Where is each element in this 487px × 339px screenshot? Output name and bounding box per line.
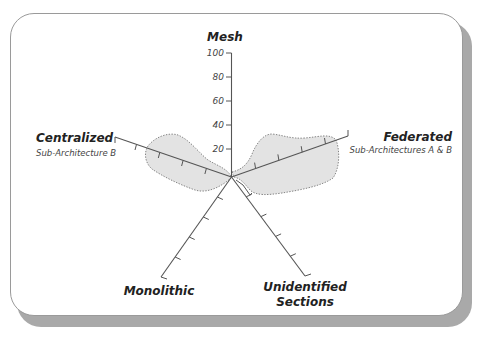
axis-label-federated: Federated bbox=[383, 130, 452, 144]
federated-region bbox=[232, 134, 339, 195]
tick-label-100: 100 bbox=[207, 48, 224, 58]
axis-sublabel-federated: Sub-Architectures A & B bbox=[350, 145, 453, 155]
axis-label-mesh: Mesh bbox=[207, 30, 243, 44]
monolithic-axis bbox=[161, 177, 232, 277]
axis-label-centralized: Centralized bbox=[36, 131, 114, 145]
axis-label-sections: Sections bbox=[276, 295, 334, 309]
axis-label-monolithic: Monolithic bbox=[124, 284, 195, 298]
tick-label-20: 20 bbox=[213, 144, 225, 154]
mesh-ticks bbox=[226, 53, 232, 149]
radar-diagram: 100 80 60 40 20 Mesh Feder bbox=[0, 0, 487, 339]
tick-label-60: 60 bbox=[213, 96, 225, 106]
monolithic-ticks bbox=[161, 197, 223, 279]
axis-label-unidentified: Unidentified bbox=[263, 280, 347, 294]
tick-label-40: 40 bbox=[213, 120, 225, 130]
tick-label-80: 80 bbox=[213, 72, 225, 82]
axis-sublabel-centralized: Sub-Architecture B bbox=[36, 148, 116, 158]
